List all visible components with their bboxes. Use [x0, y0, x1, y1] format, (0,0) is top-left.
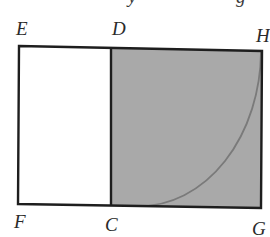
geometry-figure: y g E D H F C G	[0, 0, 270, 237]
label-E: E	[16, 19, 28, 38]
label-F: F	[14, 212, 26, 231]
label-H: H	[256, 26, 270, 45]
shaded-square-DHGC	[111, 47, 262, 208]
label-G: G	[252, 219, 266, 237]
label-D: D	[112, 19, 126, 38]
figure-diagram	[0, 0, 270, 237]
white-rectangle-EDCF	[18, 46, 111, 206]
label-C: C	[105, 215, 118, 234]
